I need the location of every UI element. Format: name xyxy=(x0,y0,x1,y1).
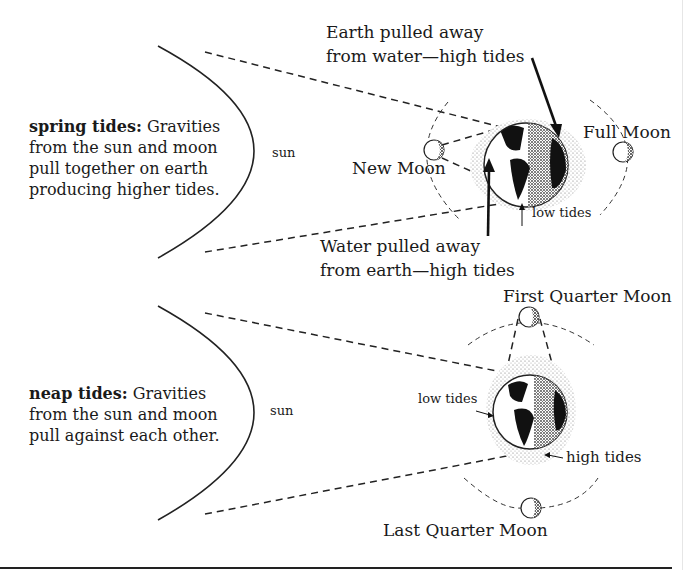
water-pulled-label-line1: Water pulled away xyxy=(320,238,480,255)
first-quarter-moon-icon xyxy=(519,307,539,327)
spring-desc-line: producing higher tides. xyxy=(29,179,220,200)
first-quarter-moon-label: First Quarter Moon xyxy=(503,288,672,305)
bottom-divider xyxy=(0,567,672,569)
last-quarter-moon-icon xyxy=(521,498,541,518)
neap-desc-line: pull against each other. xyxy=(29,425,220,446)
neap-low-tides-label: low tides xyxy=(418,392,477,405)
neap-tides-term: neap tides: xyxy=(29,384,128,403)
spring-desc-line: pull together on earth xyxy=(29,158,220,179)
tides-diagram xyxy=(0,0,688,570)
neap-desc-line: Gravities xyxy=(133,384,206,403)
page-edge xyxy=(682,0,683,570)
last-quarter-moon-label: Last Quarter Moon xyxy=(383,522,548,539)
neap-high-tides-label: high tides xyxy=(566,450,642,465)
spring-sun-label: sun xyxy=(272,146,295,159)
water-pulled-label-line2: from earth—high tides xyxy=(320,262,515,279)
earth-pulled-label-line2: from water—high tides xyxy=(326,48,524,65)
spring-tides-description: spring tides: Gravities from the sun and… xyxy=(29,116,220,200)
spring-low-tides-label: low tides xyxy=(532,206,591,219)
neap-sun-label: sun xyxy=(270,404,293,417)
full-moon-label: Full Moon xyxy=(583,124,671,141)
new-moon-label: New Moon xyxy=(352,160,446,177)
spring-desc-line: Gravities xyxy=(147,117,220,136)
spring-sight-lines xyxy=(205,52,505,252)
spring-tides-term: spring tides: xyxy=(29,117,142,136)
full-moon-icon xyxy=(613,142,633,162)
earth-pulled-label-line1: Earth pulled away xyxy=(326,24,483,41)
neap-tides-description: neap tides: Gravities from the sun and m… xyxy=(29,383,220,446)
spring-desc-line: from the sun and moon xyxy=(29,137,220,158)
new-moon-icon xyxy=(424,140,444,160)
neap-desc-line: from the sun and moon xyxy=(29,404,220,425)
